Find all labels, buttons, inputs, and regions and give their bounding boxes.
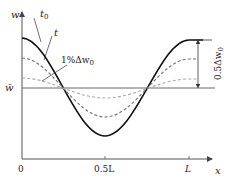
leader-t <box>44 36 52 60</box>
leader-1pct <box>42 65 67 81</box>
label-t0: t0 <box>40 8 49 21</box>
amplitude-label: 0.5Δw0 <box>213 47 225 80</box>
label-1pct: 1%Δw0 <box>61 55 94 67</box>
mean-label: w̄ <box>5 82 14 93</box>
curve-t-dashed <box>22 58 197 117</box>
curve-t0-solid <box>22 38 203 136</box>
x-tick-L: L <box>184 164 191 174</box>
diagram-canvas: w x w̄ 0 0.5L L t0 t 1%Δw0 0.5Δw0 <box>0 0 234 182</box>
label-t: t <box>54 27 59 38</box>
x-axis-label: x <box>215 165 221 176</box>
x-tick-half: 0.5L <box>94 164 114 174</box>
y-axis-label: w <box>11 9 20 20</box>
leader-t0 <box>34 18 41 42</box>
x-tick-0: 0 <box>18 164 24 174</box>
